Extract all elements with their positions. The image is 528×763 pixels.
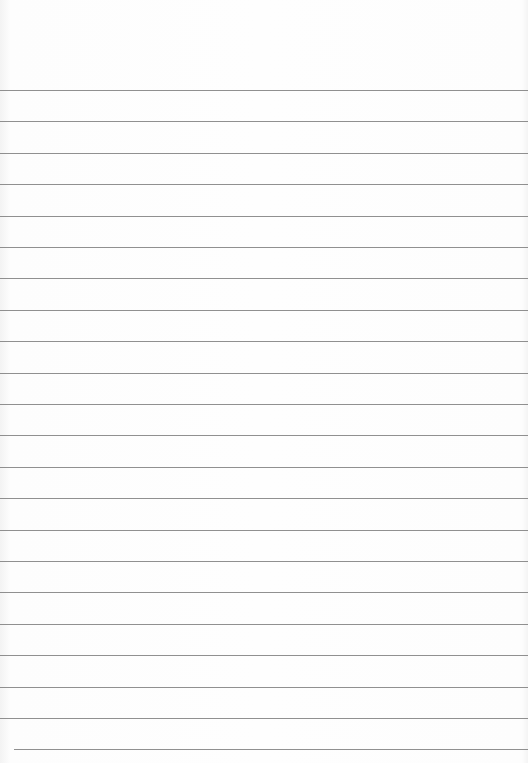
lined-paper [0, 0, 528, 763]
ruled-line [0, 216, 528, 217]
ruled-line [0, 247, 528, 248]
ruled-line [0, 90, 528, 91]
ruled-line [0, 530, 528, 531]
ruled-line [0, 655, 528, 656]
ruled-line [0, 624, 528, 625]
ruled-line [0, 278, 528, 279]
ruled-line [0, 467, 528, 468]
ruled-line [0, 498, 528, 499]
ruled-line [0, 184, 528, 185]
ruled-line [0, 341, 528, 342]
ruled-line [0, 153, 528, 154]
ruled-line [0, 435, 528, 436]
ruled-line [0, 310, 528, 311]
ruled-line [0, 121, 528, 122]
ruled-line [14, 749, 528, 750]
ruled-line [0, 373, 528, 374]
ruled-line [0, 561, 528, 562]
ruled-line [0, 404, 528, 405]
ruled-line [0, 592, 528, 593]
ruled-line [0, 718, 528, 719]
ruled-line [0, 687, 528, 688]
